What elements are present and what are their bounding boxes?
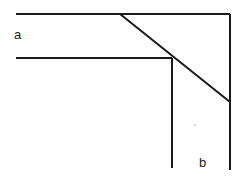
label-b: b xyxy=(199,156,206,169)
scan-speck-artifact xyxy=(194,124,196,126)
diagram-svg-canvas xyxy=(0,0,247,181)
line-diagram-figure: a b xyxy=(0,0,247,181)
label-a: a xyxy=(14,28,21,41)
